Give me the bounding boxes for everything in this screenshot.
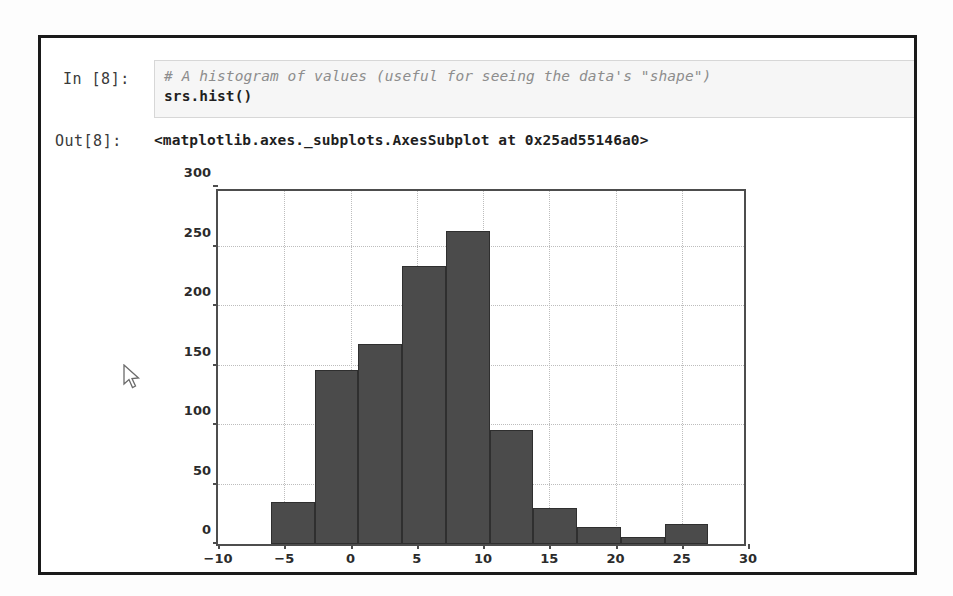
x-tick-label: 15 [540,551,558,566]
histogram-bar [315,370,359,544]
histogram-bar [621,537,665,544]
x-tick-mark [483,544,485,549]
histogram-axes: 050100150200250300−10−5051015202530 [216,189,746,546]
gridline-vertical [284,191,285,544]
histogram-bar [533,508,577,544]
gridline-vertical [549,191,550,544]
y-tick-label: 50 [193,462,211,477]
x-tick-label: 20 [606,551,624,566]
histogram-bar [358,344,402,544]
histogram-bar [271,502,315,544]
y-tick-label: 250 [184,224,211,239]
x-tick-mark [417,544,419,549]
y-tick-label: 300 [184,165,211,180]
gridline-vertical [682,191,683,544]
x-tick-label: 30 [739,551,757,566]
x-tick-mark [748,544,750,549]
notebook-cell-frame: In [8]: # A histogram of values (useful … [38,35,917,575]
mouse-cursor-icon [123,364,141,390]
y-tick-mark [213,364,218,366]
x-tick-mark [682,544,684,549]
x-tick-label: 25 [673,551,691,566]
x-tick-mark [616,544,618,549]
code-editor[interactable]: # A histogram of values (useful for seei… [154,60,914,118]
y-tick-mark [213,245,218,247]
in-prompt-label: In [8]: [63,70,130,88]
histogram-bar [402,266,446,544]
x-tick-label: 5 [412,551,421,566]
code-statement-line: srs.hist() [164,88,914,104]
x-tick-mark [351,544,353,549]
x-tick-mark [549,544,551,549]
code-comment-line: # A histogram of values (useful for seei… [164,68,914,84]
x-tick-label: 10 [474,551,492,566]
out-prompt-label: Out[8]: [55,132,122,150]
x-tick-mark [284,544,286,549]
gridline-vertical [616,191,617,544]
y-tick-mark [213,483,218,485]
matplotlib-figure: 050100150200250300−10−5051015202530 [41,158,920,578]
output-repr-text: <matplotlib.axes._subplots.AxesSubplot a… [154,132,648,148]
x-tick-label: −5 [274,551,294,566]
histogram-bar [577,527,621,544]
histogram-bar [446,231,490,544]
x-tick-mark [218,544,220,549]
x-tick-label: −10 [204,551,233,566]
y-tick-label: 200 [184,284,211,299]
histogram-bar [490,430,534,544]
output-text-row: Out[8]: <matplotlib.axes._subplots.AxesS… [41,132,914,156]
input-cell-row: In [8]: # A histogram of values (useful … [41,52,914,112]
histogram-bar [665,524,709,544]
y-tick-label: 100 [184,403,211,418]
x-tick-label: 0 [346,551,355,566]
y-tick-label: 150 [184,343,211,358]
y-tick-mark [213,423,218,425]
y-tick-label: 0 [202,522,211,537]
y-tick-mark [213,185,218,187]
y-tick-mark [213,304,218,306]
